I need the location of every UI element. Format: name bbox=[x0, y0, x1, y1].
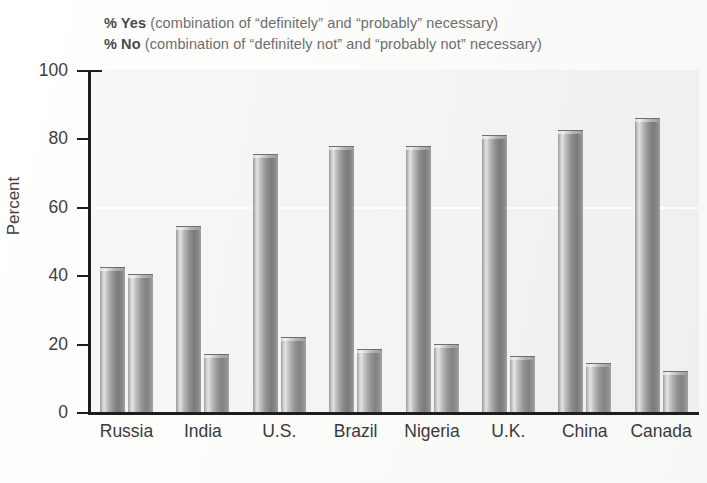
y-tick-label-80: 80 bbox=[49, 128, 68, 149]
bar-top-cap bbox=[510, 357, 535, 360]
y-tick-60: 60 bbox=[77, 207, 88, 209]
bar-uk-yes bbox=[482, 135, 507, 414]
x-label-us: U.S. bbox=[262, 421, 296, 442]
x-label-russia: Russia bbox=[100, 421, 154, 442]
bar-top-cap bbox=[100, 268, 125, 271]
bar-top-cap bbox=[558, 131, 583, 134]
bar-top-cap bbox=[281, 338, 306, 341]
y-tick-label-60: 60 bbox=[49, 197, 68, 218]
y-tick-label-100: 100 bbox=[39, 60, 68, 81]
bar-russia-no bbox=[128, 274, 153, 414]
y-axis-top-cap bbox=[88, 70, 102, 72]
bar-top-cap bbox=[204, 355, 229, 358]
bar-canada-yes bbox=[635, 118, 660, 414]
legend-key-yes: % Yes bbox=[104, 15, 146, 31]
y-tick-label-20: 20 bbox=[49, 334, 68, 355]
x-label-canada: Canada bbox=[630, 421, 691, 442]
y-tick-label-0: 0 bbox=[58, 402, 68, 423]
bar-india-no bbox=[204, 354, 229, 414]
bar-top-cap bbox=[357, 350, 382, 353]
y-tick-20: 20 bbox=[77, 344, 88, 346]
chart-page: % Yes (combination of “definitely” and “… bbox=[0, 0, 707, 483]
legend-key-no: % No bbox=[104, 36, 141, 52]
y-axis-title: Percent bbox=[4, 177, 24, 236]
y-tick-0: 0 bbox=[77, 412, 88, 414]
bar-top-cap bbox=[434, 345, 459, 348]
legend-desc-no: (combination of “definitely not” and “pr… bbox=[141, 36, 542, 52]
legend-row-no: % No (combination of “definitely not” an… bbox=[104, 34, 542, 55]
bar-top-cap bbox=[128, 275, 153, 278]
bar-us-no bbox=[281, 337, 306, 414]
legend-desc-yes: (combination of “definitely” and “probab… bbox=[146, 15, 498, 31]
bar-top-cap bbox=[482, 136, 507, 139]
bar-top-cap bbox=[253, 155, 278, 158]
bar-china-no bbox=[586, 363, 611, 414]
bar-uk-no bbox=[510, 356, 535, 414]
bar-nigeria-no bbox=[434, 344, 459, 414]
bar-top-cap bbox=[635, 119, 660, 122]
bar-top-cap bbox=[329, 147, 354, 150]
bar-brazil-yes bbox=[329, 146, 354, 414]
y-tick-40: 40 bbox=[77, 275, 88, 277]
y-tick-100: 100 bbox=[77, 70, 88, 72]
bar-top-cap bbox=[176, 227, 201, 230]
x-label-nigeria: Nigeria bbox=[404, 421, 459, 442]
bar-russia-yes bbox=[100, 267, 125, 414]
bar-nigeria-yes bbox=[406, 146, 431, 414]
bar-india-yes bbox=[176, 226, 201, 414]
scan-artifact-line bbox=[88, 207, 699, 209]
x-label-india: India bbox=[184, 421, 222, 442]
bar-china-yes bbox=[558, 130, 583, 414]
plot-area bbox=[88, 70, 699, 414]
bar-brazil-no bbox=[357, 349, 382, 414]
x-label-china: China bbox=[562, 421, 608, 442]
y-tick-80: 80 bbox=[77, 138, 88, 140]
bar-us-yes bbox=[253, 154, 278, 414]
x-axis-line bbox=[88, 412, 699, 415]
x-label-brazil: Brazil bbox=[334, 421, 378, 442]
x-label-uk: U.K. bbox=[491, 421, 525, 442]
legend-row-yes: % Yes (combination of “definitely” and “… bbox=[104, 13, 542, 34]
bar-canada-no bbox=[663, 371, 688, 414]
bar-top-cap bbox=[586, 364, 611, 367]
bar-top-cap bbox=[663, 372, 688, 375]
bar-top-cap bbox=[406, 147, 431, 150]
y-axis-line: 100806040200 bbox=[88, 70, 91, 415]
chart-legend: % Yes (combination of “definitely” and “… bbox=[104, 13, 542, 55]
y-tick-label-40: 40 bbox=[49, 265, 68, 286]
